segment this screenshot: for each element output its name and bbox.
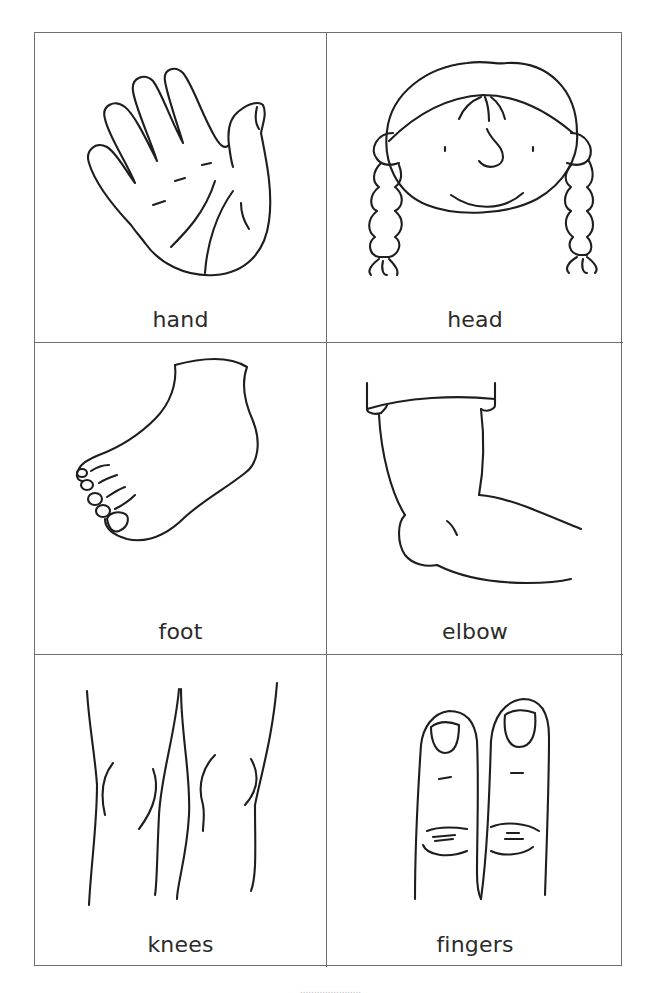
card-knees: knees (35, 655, 327, 967)
footer-credit-text: ...................... (300, 984, 654, 993)
hand-icon (35, 33, 327, 343)
card-head: head (327, 33, 623, 343)
card-label: elbow (327, 619, 623, 644)
card-elbow: elbow (327, 343, 623, 655)
card-hand: hand (35, 33, 327, 343)
fingers-icon (327, 655, 623, 967)
elbow-icon (327, 343, 623, 655)
knees-icon (35, 655, 327, 967)
card-label: fingers (327, 932, 623, 957)
card-label: knees (35, 932, 326, 957)
card-label: hand (35, 307, 326, 332)
picture-card-sheet: hand (34, 32, 622, 966)
card-label: foot (35, 619, 326, 644)
card-foot: foot (35, 343, 327, 655)
foot-icon (35, 343, 327, 655)
girl-head-icon (327, 33, 623, 343)
card-fingers: fingers (327, 655, 623, 967)
card-label: head (327, 307, 623, 332)
